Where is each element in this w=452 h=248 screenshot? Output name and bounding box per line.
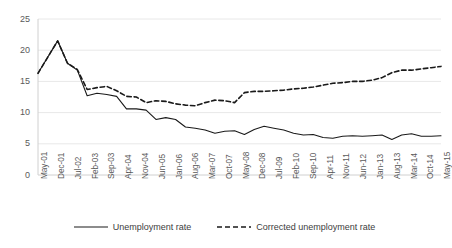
legend-label-corrected-unemployment-rate: Corrected unemployment rate bbox=[256, 222, 375, 232]
x-tick-label: Aug-06 bbox=[192, 153, 200, 179]
data-series bbox=[38, 41, 441, 140]
x-tick-label: Jul-02 bbox=[75, 157, 83, 179]
x-tick-label: Oct-07 bbox=[226, 154, 234, 179]
x-tick-label: May-08 bbox=[243, 152, 251, 179]
x-tick-label: May-01 bbox=[41, 152, 49, 179]
x-tick-label: Mar-14 bbox=[411, 153, 419, 179]
x-tick-label: Apr-04 bbox=[125, 154, 133, 179]
x-tick-label: Jul-09 bbox=[276, 157, 284, 179]
y-tick-label: 10 bbox=[8, 108, 30, 117]
x-tick-label: Feb-03 bbox=[92, 153, 100, 179]
x-tick-label: Apr-11 bbox=[327, 155, 335, 179]
y-tick-label: 5 bbox=[8, 139, 30, 148]
x-tick-label: Nov-04 bbox=[142, 153, 150, 179]
x-tick-label: Sep-10 bbox=[310, 153, 318, 179]
x-tick-label: Mar-07 bbox=[209, 153, 217, 179]
x-tick-label: Sep-03 bbox=[108, 153, 116, 179]
x-tick-label: Nov-11 bbox=[343, 153, 351, 179]
y-tick-label: 0 bbox=[8, 171, 30, 180]
y-tick-label: 20 bbox=[8, 46, 30, 55]
x-tick-label: Jun-12 bbox=[360, 154, 368, 179]
x-tick-label: Jan-13 bbox=[377, 154, 385, 179]
x-tick-label: May-15 bbox=[444, 152, 452, 179]
legend-dashed-line-icon bbox=[217, 223, 251, 231]
legend-solid-line-icon bbox=[74, 223, 108, 231]
x-tick-label: Dec-08 bbox=[259, 153, 267, 179]
x-tick-label: Jun-05 bbox=[159, 154, 167, 179]
legend-item-corrected-unemployment-rate: Corrected unemployment rate bbox=[217, 222, 375, 232]
chart-legend: Unemployment rate Corrected unemployment… bbox=[0, 222, 449, 232]
series-line-unemployment-rate bbox=[38, 41, 441, 140]
y-tick-label: 15 bbox=[8, 77, 30, 86]
x-tick-label: Oct-14 bbox=[427, 154, 435, 179]
y-tick-label: 25 bbox=[8, 15, 30, 24]
x-tick-label: Aug-13 bbox=[394, 153, 402, 179]
legend-label-unemployment-rate: Unemployment rate bbox=[113, 222, 192, 232]
gridlines bbox=[38, 19, 441, 144]
x-tick-label: Jan-06 bbox=[176, 154, 184, 179]
legend-item-unemployment-rate: Unemployment rate bbox=[74, 222, 192, 232]
x-tick-label: Dec-01 bbox=[58, 153, 66, 179]
x-tick-label: Feb-10 bbox=[293, 153, 301, 179]
